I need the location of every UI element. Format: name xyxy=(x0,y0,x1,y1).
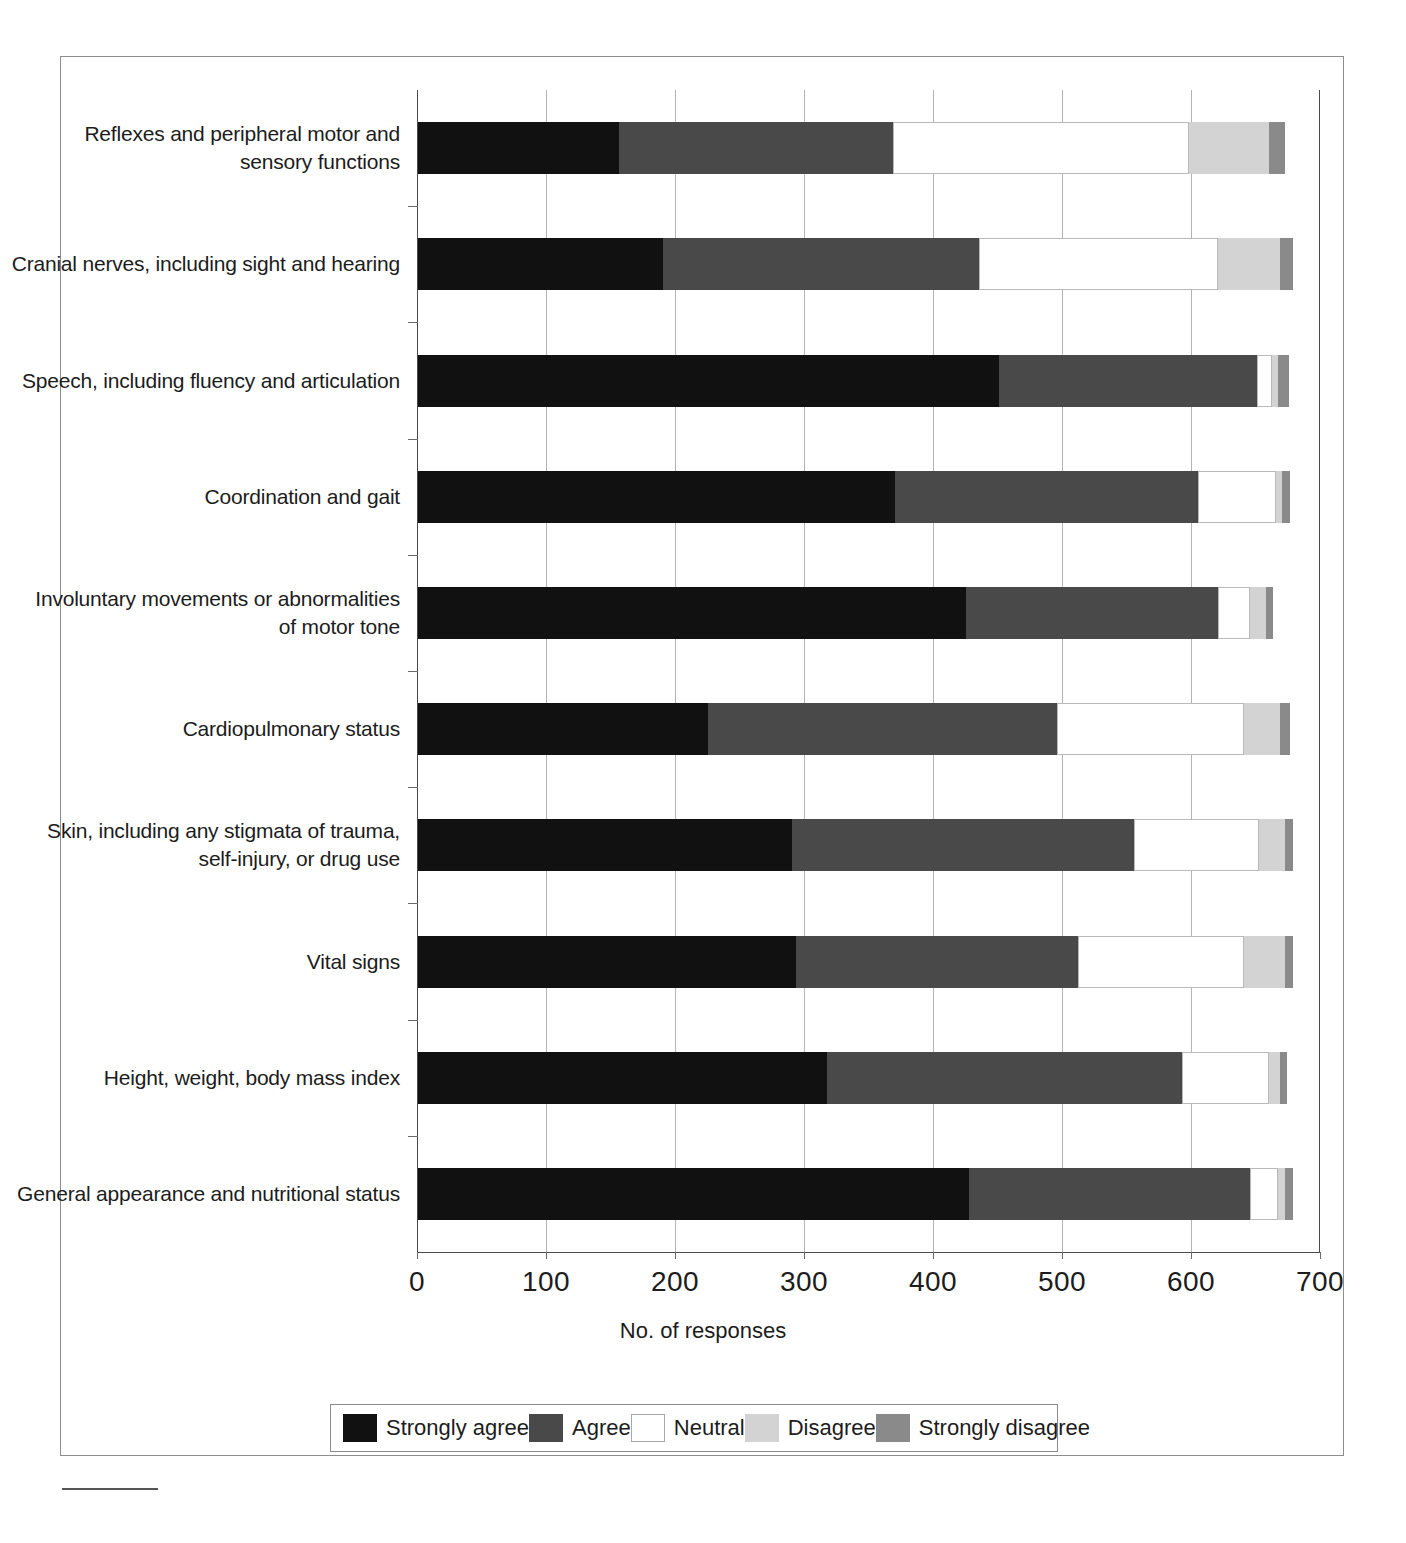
bar-segment xyxy=(1078,936,1243,988)
bar-segment xyxy=(1280,703,1290,755)
y-tick xyxy=(408,1020,418,1021)
bar-segment xyxy=(893,122,1190,174)
legend-item[interactable]: Agree xyxy=(529,1414,631,1442)
bar-segment xyxy=(418,703,708,755)
legend-label: Neutral xyxy=(674,1415,745,1441)
bar-segment xyxy=(1280,1052,1288,1104)
category-label: Involuntary movements or abnormalities o… xyxy=(35,585,400,641)
legend-swatch-icon xyxy=(529,1414,563,1442)
x-tick-100 xyxy=(546,1252,547,1259)
bar-segment xyxy=(792,819,1134,871)
x-tick-0 xyxy=(417,1252,418,1259)
bar-segment xyxy=(708,703,1056,755)
legend-swatch-icon xyxy=(631,1414,665,1442)
bar-segment xyxy=(1278,355,1288,407)
legend-swatch-icon xyxy=(876,1414,910,1442)
x-tick-500 xyxy=(1062,1252,1063,1259)
y-tick xyxy=(408,555,418,556)
legend-item[interactable]: Strongly agree xyxy=(343,1414,529,1442)
plot-right-border xyxy=(1319,90,1320,1252)
x-tick-700 xyxy=(1320,1252,1321,1259)
bar-segment xyxy=(418,238,663,290)
legend-label: Disagree xyxy=(788,1415,876,1441)
plot-area xyxy=(417,90,1320,1252)
x-tick-label: 100 xyxy=(522,1266,570,1298)
bar-segment xyxy=(1182,1052,1270,1104)
category-label: Skin, including any stigmata of trauma, … xyxy=(47,817,400,873)
bar-segment xyxy=(1244,703,1280,755)
bar-segment xyxy=(418,587,966,639)
y-tick xyxy=(408,206,418,207)
x-tick-600 xyxy=(1191,1252,1192,1259)
legend-label: Strongly agree xyxy=(386,1415,529,1441)
x-tick-label: 700 xyxy=(1296,1266,1344,1298)
bar-segment xyxy=(1269,122,1284,174)
category-label: Vital signs xyxy=(307,948,400,976)
bar-segment xyxy=(418,471,895,523)
category-label: Height, weight, body mass index xyxy=(104,1064,400,1092)
bar-segment xyxy=(1280,238,1293,290)
bar-segment xyxy=(796,936,1079,988)
stacked-bar xyxy=(418,471,1290,523)
y-tick xyxy=(408,322,418,323)
x-tick-label: 400 xyxy=(909,1266,957,1298)
x-tick-label: 600 xyxy=(1167,1266,1215,1298)
bar-segment xyxy=(969,1168,1250,1220)
bar-segment xyxy=(418,1052,827,1104)
bar-segment xyxy=(979,238,1218,290)
bar-segment xyxy=(895,471,1198,523)
legend-label: Strongly disagree xyxy=(919,1415,1090,1441)
stacked-bar xyxy=(418,936,1293,988)
y-tick xyxy=(408,1136,418,1137)
legend-item[interactable]: Strongly disagree xyxy=(876,1414,1090,1442)
bar-segment xyxy=(1250,1168,1278,1220)
legend-item[interactable]: Neutral xyxy=(631,1414,745,1442)
bar-segment xyxy=(1057,703,1244,755)
footnote-rule xyxy=(62,1488,158,1490)
bar-segment xyxy=(1285,1168,1293,1220)
category-label: Cardiopulmonary status xyxy=(183,715,400,743)
bar-segment xyxy=(1244,936,1285,988)
bar-segment xyxy=(663,238,979,290)
x-tick-200 xyxy=(675,1252,676,1259)
x-tick-label: 500 xyxy=(1038,1266,1086,1298)
bar-segment xyxy=(1285,819,1293,871)
bar-segment xyxy=(1218,587,1250,639)
legend-swatch-icon xyxy=(343,1414,377,1442)
bar-segment xyxy=(827,1052,1182,1104)
x-tick-label: 200 xyxy=(651,1266,699,1298)
bar-segment xyxy=(1285,936,1293,988)
legend-item[interactable]: Disagree xyxy=(745,1414,876,1442)
category-label: General appearance and nutritional statu… xyxy=(17,1180,400,1208)
bar-segment xyxy=(1266,587,1274,639)
bar-segment xyxy=(1257,355,1272,407)
bar-segment xyxy=(1134,819,1259,871)
stacked-bar xyxy=(418,122,1285,174)
stacked-bar xyxy=(418,1168,1293,1220)
category-label: Speech, including fluency and articulati… xyxy=(22,367,400,395)
bar-segment xyxy=(1250,587,1265,639)
bar-segment xyxy=(1259,819,1285,871)
stacked-bar xyxy=(418,238,1293,290)
bar-segment xyxy=(418,355,999,407)
stacked-bar xyxy=(418,819,1293,871)
bar-segment xyxy=(418,819,792,871)
bar-segment xyxy=(1269,1052,1279,1104)
y-tick xyxy=(408,787,418,788)
bar-segment xyxy=(1282,471,1290,523)
stacked-bar xyxy=(418,703,1290,755)
legend: Strongly agreeAgreeNeutralDisagreeStrong… xyxy=(330,1404,1058,1452)
bar-segment xyxy=(966,587,1218,639)
bar-segment xyxy=(619,122,892,174)
bar-segment xyxy=(1198,471,1275,523)
x-tick-label: 0 xyxy=(409,1266,425,1298)
stacked-bar xyxy=(418,1052,1287,1104)
category-label: Cranial nerves, including sight and hear… xyxy=(12,250,400,278)
bar-segment xyxy=(1218,238,1280,290)
y-tick xyxy=(408,439,418,440)
bar-segment xyxy=(418,122,619,174)
bar-segment xyxy=(1189,122,1269,174)
x-tick-300 xyxy=(804,1252,805,1259)
category-label: Reflexes and peripheral motor and sensor… xyxy=(84,120,400,176)
bar-segment xyxy=(999,355,1257,407)
